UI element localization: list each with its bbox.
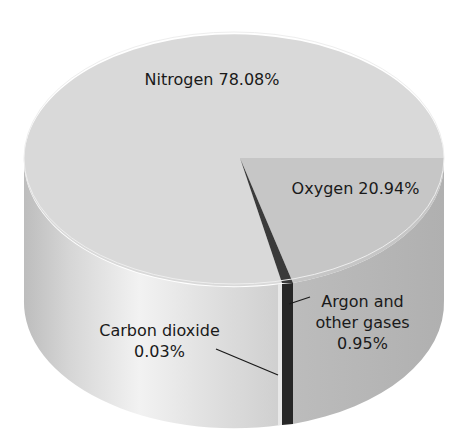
label-co2-line2: 0.03% <box>92 341 227 362</box>
label-oxygen: Oxygen 20.94% <box>268 178 443 199</box>
slice-side-carbon-dioxide <box>278 284 282 425</box>
slice-side-argon <box>282 283 293 425</box>
label-carbon-dioxide: Carbon dioxide 0.03% <box>92 320 227 362</box>
label-argon-line3: 0.95% <box>300 333 425 354</box>
pie-chart-3d <box>0 0 465 445</box>
label-argon-line1: Argon and <box>300 291 425 312</box>
label-nitrogen: Nitrogen 78.08% <box>112 69 312 90</box>
label-argon-line2: other gases <box>300 312 425 333</box>
label-argon: Argon and other gases 0.95% <box>300 291 425 354</box>
label-co2-line1: Carbon dioxide <box>92 320 227 341</box>
